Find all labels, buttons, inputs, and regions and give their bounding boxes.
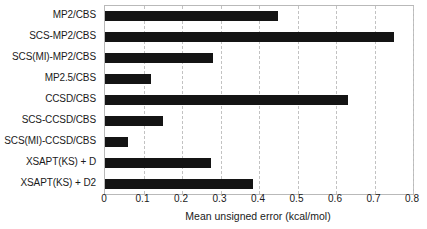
bar <box>105 11 278 21</box>
bar <box>105 95 348 105</box>
bar-row <box>105 6 413 27</box>
y-axis-tick-label: MP2.5/CBS <box>0 68 100 89</box>
bar-row <box>105 110 413 131</box>
y-axis-tick-label: XSAPT(KS) + D <box>0 151 100 172</box>
y-axis-tick-label: XSAPT(KS) + D2 <box>0 172 100 193</box>
bar-row <box>105 131 413 152</box>
bar-row <box>105 173 413 194</box>
x-axis-tick-labels: 00.10.20.30.40.50.60.70.8 <box>104 194 412 208</box>
y-axis-tick-label: SCS-MP2/CBS <box>0 26 100 47</box>
bar-row <box>105 48 413 69</box>
bar <box>105 137 128 147</box>
x-axis-tick-label: 0.5 <box>290 194 304 204</box>
x-axis-tick-label: 0.6 <box>328 194 342 204</box>
gridline <box>413 6 414 194</box>
x-axis-tick-label: 0 <box>101 194 107 204</box>
bar <box>105 32 394 42</box>
y-axis-tick-label: CCSD/CBS <box>0 89 100 110</box>
x-axis-tick-label: 0.2 <box>174 194 188 204</box>
bar <box>105 158 211 168</box>
bar-row <box>105 69 413 90</box>
bar <box>105 53 213 63</box>
y-axis-tick-label: SCS(MI)-CCSD/CBS <box>0 130 100 151</box>
x-axis-tick-label: 0.7 <box>367 194 381 204</box>
x-axis-title: Mean unsigned error (kcal/mol) <box>104 210 412 222</box>
x-axis-tick-label: 0.1 <box>136 194 150 204</box>
x-axis-tick-label: 0.8 <box>405 194 419 204</box>
plot-area <box>104 5 414 195</box>
bar-row <box>105 152 413 173</box>
y-axis-tick-label: MP2/CBS <box>0 5 100 26</box>
bar <box>105 179 253 189</box>
bar <box>105 74 151 84</box>
bar-series <box>105 6 413 194</box>
y-axis-tick-label: SCS-CCSD/CBS <box>0 109 100 130</box>
y-axis-tick-label: SCS(MI)-MP2/CBS <box>0 47 100 68</box>
x-axis-tick-label: 0.3 <box>213 194 227 204</box>
bar <box>105 116 163 126</box>
y-axis-category-labels: MP2/CBSSCS-MP2/CBSSCS(MI)-MP2/CBSMP2.5/C… <box>0 5 100 193</box>
x-axis-tick-label: 0.4 <box>251 194 265 204</box>
bar-chart: MP2/CBSSCS-MP2/CBSSCS(MI)-MP2/CBSMP2.5/C… <box>0 0 427 229</box>
bar-row <box>105 90 413 111</box>
bar-row <box>105 27 413 48</box>
